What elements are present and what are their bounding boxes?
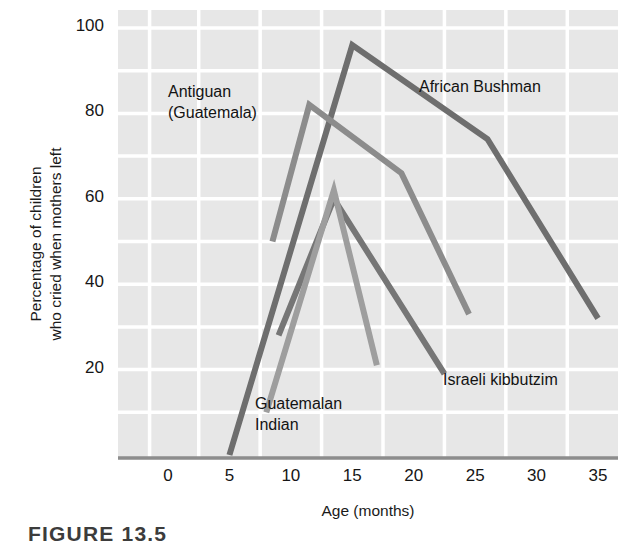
y-axis-title: Percentage of children who cried when mo… — [26, 94, 66, 394]
series-label-antiguan: Antiguan (Guatemala) — [168, 81, 257, 123]
x-tick-label: 10 — [269, 466, 313, 486]
x-tick-label: 20 — [392, 466, 436, 486]
figure-caption: FIGURE 13.5 — [28, 522, 167, 544]
series-label-african-bushman: African Bushman — [419, 76, 541, 97]
figure-container: Percentage of children who cried when mo… — [0, 0, 627, 544]
x-tick-label: 30 — [515, 466, 559, 486]
y-tick-label: 60 — [58, 187, 104, 207]
x-tick-label: 35 — [576, 466, 620, 486]
x-tick-label: 15 — [330, 466, 374, 486]
y-tick-label: 100 — [58, 16, 104, 36]
y-tick-label: 40 — [58, 272, 104, 292]
series-label-guatemalan-indian: Guatemalan Indian — [255, 393, 342, 435]
series-label-israeli-kibbutzim: Israeli kibbutzim — [443, 369, 558, 390]
y-tick-label: 20 — [58, 358, 104, 378]
x-axis-title: Age (months) — [118, 502, 618, 520]
y-tick-label: 80 — [58, 101, 104, 121]
x-tick-label: 0 — [146, 466, 190, 486]
x-tick-label: 25 — [453, 466, 497, 486]
x-tick-label: 5 — [207, 466, 251, 486]
